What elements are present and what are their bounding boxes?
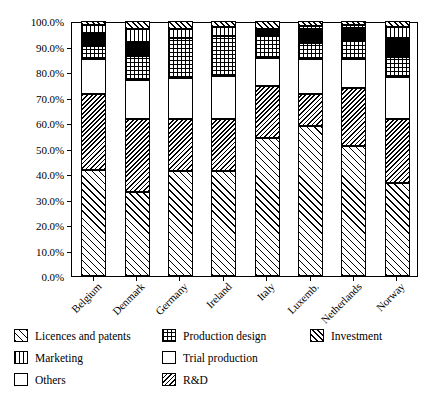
bar-segment — [81, 33, 106, 46]
bar-segment — [298, 43, 323, 58]
legend-item: Others — [14, 372, 66, 387]
legend-item: Licences and patents — [14, 328, 131, 343]
y-axis-tick-label: 30.0% — [36, 195, 64, 206]
legend-label: Marketing — [35, 352, 83, 364]
bar-segment — [298, 94, 323, 126]
y-axis-tick-label: 70.0% — [36, 93, 64, 104]
bar-segment — [298, 126, 323, 276]
legend-item: Production design — [162, 328, 266, 343]
bar-segment — [298, 29, 323, 43]
bar-segment — [255, 138, 280, 276]
y-axis: 0.0%10.0%20.0%30.0%40.0%50.0%60.0%70.0%8… — [0, 22, 64, 277]
legend-swatch-investment-icon — [310, 329, 324, 342]
bar-segment — [125, 192, 150, 276]
bar-segment — [211, 27, 236, 36]
legend-item: Trial production — [162, 350, 258, 365]
bar-segment — [385, 57, 410, 77]
bar-belgium — [81, 21, 106, 276]
bar-segment — [168, 119, 193, 171]
legend-label: Production design — [183, 330, 266, 342]
bar-segment — [255, 58, 280, 86]
bar-segment — [81, 25, 106, 33]
y-axis-tick-label: 50.0% — [36, 144, 64, 155]
legend-swatch-trial-icon — [162, 351, 176, 364]
x-axis-tick-label: Netherlands — [319, 281, 364, 326]
bar-segment — [341, 25, 366, 28]
x-axis-tick-label: Belgium — [69, 281, 103, 315]
bar-segment — [81, 170, 106, 276]
y-axis-tick-label: 90.0% — [36, 42, 64, 53]
bar-segment — [168, 38, 193, 79]
legend-item: R&D — [162, 372, 208, 387]
bar-segment — [211, 76, 236, 119]
x-axis-tick-label: Norway — [375, 281, 407, 313]
bar-segment — [81, 46, 106, 60]
x-axis-tick-label: Italy — [255, 281, 277, 303]
bar-segment — [255, 21, 280, 29]
bar-segment — [168, 171, 193, 276]
bar-segment — [341, 28, 366, 41]
x-axis-tick-label: Ireland — [204, 281, 233, 310]
legend-label: Trial production — [183, 352, 258, 364]
y-axis-tick-label: 100.0% — [31, 17, 64, 28]
bar-segment — [385, 183, 410, 276]
legend-swatch-rd-icon — [162, 373, 176, 386]
bar-segment — [385, 27, 410, 37]
x-axis-tick-label: Luxemb. — [285, 281, 320, 316]
bar-segment — [125, 80, 150, 120]
bar-segment — [341, 21, 366, 25]
bar-segment — [168, 78, 193, 119]
bar-segment — [211, 119, 236, 171]
bar-segment — [298, 59, 323, 95]
bar-segment — [81, 59, 106, 93]
chart-legend: Licences and patentsMarketingOthersProdu… — [14, 328, 419, 398]
bar-segment — [81, 94, 106, 171]
legend-swatch-marketing-icon — [14, 351, 28, 364]
bar-segment — [341, 59, 366, 88]
bar-netherlands — [341, 21, 366, 276]
legend-label: Licences and patents — [35, 330, 131, 342]
bar-segment — [168, 29, 193, 38]
bar-segment — [255, 86, 280, 138]
bar-segment — [125, 21, 150, 29]
bar-ireland — [211, 21, 236, 276]
legend-item: Marketing — [14, 350, 83, 365]
bar-denmark — [125, 21, 150, 276]
legend-label: Others — [35, 374, 66, 386]
bar-segment — [125, 29, 150, 42]
bar-segment — [298, 26, 323, 29]
bar-segment — [341, 41, 366, 59]
bar-italy — [255, 21, 280, 276]
bar-germany — [168, 21, 193, 276]
bar-segment — [385, 119, 410, 183]
bar-segment — [211, 36, 236, 76]
legend-swatch-production-icon — [162, 329, 176, 342]
y-axis-tick-label: 40.0% — [36, 170, 64, 181]
legend-label: R&D — [183, 374, 208, 386]
bar-segment — [341, 88, 366, 146]
bar-luxemb — [298, 21, 323, 276]
y-axis-tick-label: 10.0% — [36, 246, 64, 257]
x-axis-tick-label: Denmark — [111, 281, 147, 317]
stacked-bar-chart: 0.0%10.0%20.0%30.0%40.0%50.0%60.0%70.0%8… — [0, 0, 431, 408]
bar-segment — [211, 171, 236, 276]
bar-segment — [211, 21, 236, 27]
legend-label: Investment — [331, 330, 382, 342]
y-axis-tick-label: 0.0% — [41, 272, 64, 283]
bar-segment — [385, 21, 410, 27]
y-axis-tick-label: 20.0% — [36, 221, 64, 232]
bar-segment — [385, 38, 410, 57]
y-axis-tick-label: 60.0% — [36, 119, 64, 130]
legend-item: Investment — [310, 328, 382, 343]
x-axis-tick-label: Germany — [154, 281, 190, 317]
bar-segment — [341, 146, 366, 276]
bar-segment — [255, 29, 280, 37]
bar-segment — [255, 36, 280, 58]
plot-area — [71, 22, 418, 277]
bar-norway — [385, 21, 410, 276]
bar-segment — [168, 21, 193, 29]
legend-swatch-others-icon — [14, 373, 28, 386]
bar-segment — [125, 42, 150, 56]
bar-segment — [81, 21, 106, 25]
legend-swatch-licences-icon — [14, 329, 28, 342]
